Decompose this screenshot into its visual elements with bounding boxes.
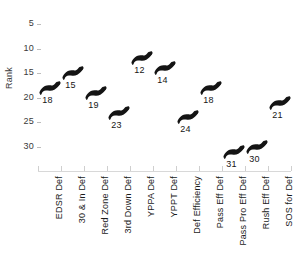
y-tick-label: 25: [0, 116, 34, 126]
x-tick-mark: [199, 166, 200, 171]
x-category-label-text: 3rd Down Def: [123, 176, 133, 265]
data-point-value-label: 21: [267, 110, 289, 120]
x-category-label: 30 & In Def: [77, 176, 87, 265]
buffalo-marker-icon: [85, 86, 107, 100]
x-category-label-text: YPPA Def: [146, 176, 156, 265]
data-point-value-label: 24: [175, 124, 197, 134]
x-tick-mark: [84, 166, 85, 171]
y-tick-label: 30: [0, 141, 34, 151]
buffalo-marker-icon: [177, 110, 199, 124]
y-tick-label: 20: [0, 92, 34, 102]
x-category-label-text: 30 & In Def: [77, 176, 87, 265]
x-tick-mark: [291, 166, 292, 171]
y-tick-mark: [37, 49, 41, 50]
x-category-label: EDSR Def: [54, 176, 64, 265]
data-point-value-label: 18: [37, 95, 59, 105]
x-category-label-text: SOS for Def: [284, 176, 294, 265]
x-category-label: Rush Eff Def: [261, 176, 271, 265]
x-category-label-text: Red Zone Def: [100, 176, 110, 265]
data-point-value-label: 23: [106, 120, 128, 130]
buffalo-marker-icon: [269, 96, 291, 110]
x-tick-mark: [61, 166, 62, 171]
y-tick-mark: [37, 147, 41, 148]
buffalo-marker-icon: [131, 51, 153, 65]
x-category-label: 3rd Down Def: [123, 176, 133, 265]
buffalo-marker-icon: [200, 81, 222, 95]
data-point-value-label: 31: [221, 159, 243, 169]
buffalo-marker-icon: [223, 145, 245, 159]
y-tick-label: 5: [0, 18, 34, 28]
x-category-label-text: YPPT Def: [169, 176, 179, 265]
x-category-label-text: Def Efficiency: [192, 176, 202, 265]
x-category-label: Def Efficiency: [192, 176, 202, 265]
y-tick-label: 15: [0, 67, 34, 77]
x-category-label: Red Zone Def: [100, 176, 110, 265]
x-axis-line: [38, 171, 291, 172]
x-category-label: YPPA Def: [146, 176, 156, 265]
buffalo-marker-icon: [246, 140, 268, 154]
x-tick-mark: [245, 166, 246, 171]
data-point-value-label: 19: [83, 100, 105, 110]
x-tick-mark: [268, 166, 269, 171]
x-category-label: YPPT Def: [169, 176, 179, 265]
y-tick-mark: [37, 122, 41, 123]
data-point-value-label: 12: [129, 65, 151, 75]
x-tick-mark: [130, 166, 131, 171]
buffalo-marker-icon: [154, 61, 176, 75]
y-tick-label: 10: [0, 43, 34, 53]
buffalo-marker-icon: [39, 81, 61, 95]
buffalo-marker-icon: [62, 66, 84, 80]
x-category-label-text: EDSR Def: [54, 176, 64, 265]
x-tick-mark: [107, 166, 108, 171]
y-tick-mark: [37, 24, 41, 25]
x-category-label-text: Rush Eff Def: [261, 176, 271, 265]
x-category-label: SOS for Def: [284, 176, 294, 265]
x-category-label: Pass Pro Eff Def: [238, 176, 248, 265]
x-tick-mark: [176, 166, 177, 171]
x-category-label: Pass Eff Def: [215, 176, 225, 265]
x-category-label-text: Pass Pro Eff Def: [238, 176, 248, 265]
x-tick-mark: [38, 166, 39, 171]
data-point-value-label: 15: [60, 80, 82, 90]
data-point-value-label: 14: [152, 75, 174, 85]
data-point-value-label: 30: [244, 154, 266, 164]
x-category-label-text: Pass Eff Def: [215, 176, 225, 265]
rank-scatter-chart: Rank 51015202530 18 15 19 23 12 14 24 18…: [0, 0, 294, 265]
buffalo-marker-icon: [108, 106, 130, 120]
y-tick-mark: [37, 73, 41, 74]
data-point-value-label: 18: [198, 95, 220, 105]
x-tick-mark: [153, 166, 154, 171]
